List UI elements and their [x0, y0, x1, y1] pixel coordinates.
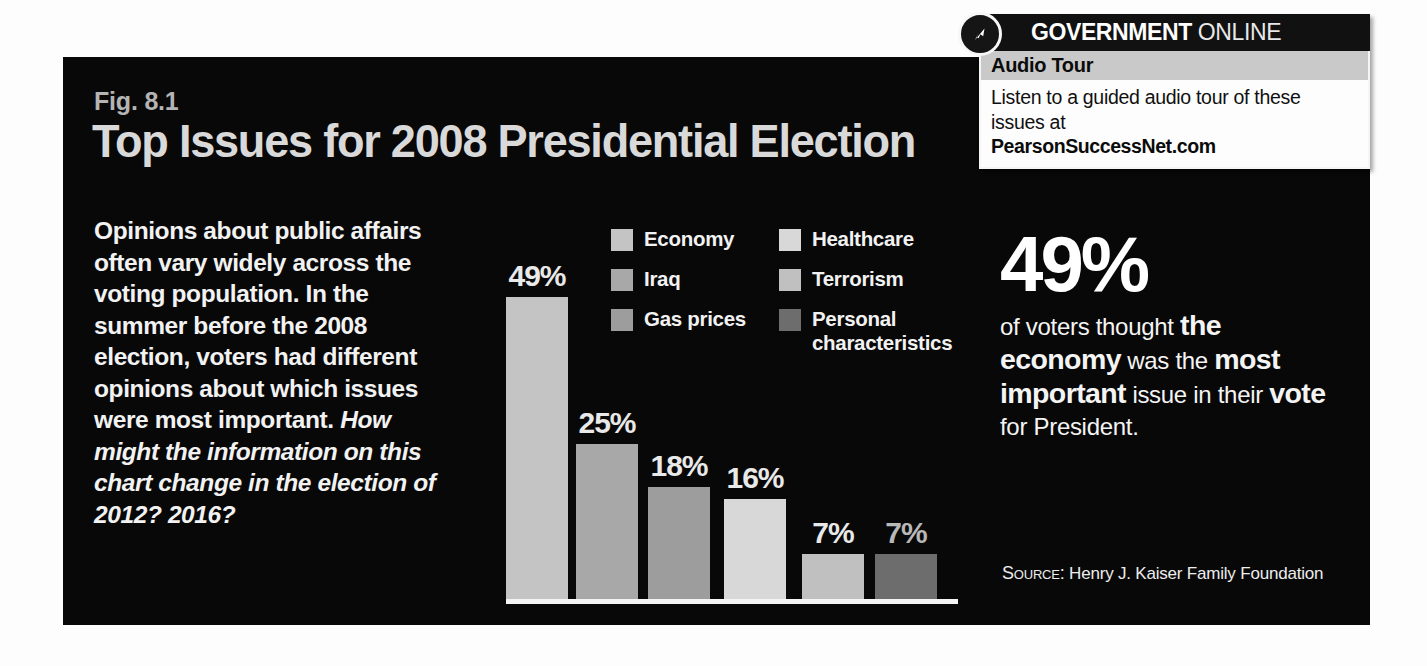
pull-quote-number: 49% — [1000, 225, 1330, 303]
legend-swatch-personal-characteristics — [779, 309, 801, 331]
bar-value-label: 7% — [812, 516, 853, 550]
brand-bold: GOVERNMENT — [1031, 19, 1192, 45]
bar-healthcare: 16% — [724, 499, 786, 602]
pull-quote-body: of voters thought the economy was the mo… — [1000, 309, 1330, 443]
bar-value-label: 18% — [650, 449, 707, 483]
brand-thin: ONLINE — [1198, 19, 1281, 45]
legend-swatch-economy — [611, 229, 633, 251]
legend-label: Gas prices — [644, 307, 746, 331]
bar-rect — [648, 487, 710, 602]
legend-label: Personal characteristics — [812, 307, 979, 355]
legend-swatch-terrorism — [779, 269, 801, 291]
callout-brand: GOVERNMENT ONLINE — [1031, 19, 1281, 46]
pull-quote: 49% of voters thought the economy was th… — [1000, 225, 1330, 443]
bar-economy: 49% — [506, 297, 568, 602]
bar-value-label: 25% — [578, 406, 635, 440]
legend-swatch-gas-prices — [611, 309, 633, 331]
callout-body: Listen to a guided audio tour of these i… — [979, 80, 1370, 169]
legend-column-left: Economy Iraq Gas prices — [611, 227, 779, 371]
legend-item: Economy — [611, 227, 779, 251]
pq-5: issue in their — [1126, 381, 1269, 408]
legend-item: Terrorism — [779, 267, 979, 291]
legend-label: Economy — [644, 227, 734, 251]
pq-1: of voters thought — [1000, 313, 1180, 340]
bar-rect — [724, 499, 786, 602]
lead-paragraph: Opinions about public affairs often vary… — [94, 215, 438, 530]
legend-item: Personal characteristics — [779, 307, 979, 355]
legend-label: Iraq — [644, 267, 680, 291]
source-name: Henry J. Kaiser Family Foundation — [1069, 564, 1323, 583]
infographic-stage: Fig. 8.1 Top Issues for 2008 Presidentia… — [0, 0, 1427, 666]
pq-7: for President. — [1000, 413, 1139, 440]
callout-header: GOVERNMENT ONLINE — [979, 14, 1370, 51]
figure-number: Fig. 8.1 — [94, 87, 179, 116]
callout-band-title: Audio Tour — [991, 54, 1093, 77]
legend-swatch-iraq — [611, 269, 633, 291]
legend-item: Iraq — [611, 267, 779, 291]
page-title: Top Issues for 2008 Presidential Electio… — [92, 113, 915, 168]
government-online-callout[interactable]: GOVERNMENT ONLINE Audio Tour Listen to a… — [979, 14, 1370, 169]
bar-value-label: 49% — [508, 259, 565, 293]
source-line: Source: Henry J. Kaiser Family Foundatio… — [1002, 563, 1323, 584]
chart-legend: Economy Iraq Gas prices Healthcare — [611, 227, 986, 371]
bar-rect — [576, 444, 638, 602]
bar-gas-prices: 18% — [648, 487, 710, 602]
legend-label: Healthcare — [812, 227, 914, 251]
cursor-arrow-icon — [958, 12, 1002, 56]
callout-body-text: Listen to a guided audio tour of these i… — [991, 86, 1301, 133]
pq-3: was the — [1121, 347, 1214, 374]
legend-swatch-healthcare — [779, 229, 801, 251]
bar-rect — [802, 554, 864, 602]
legend-item: Healthcare — [779, 227, 979, 251]
bar-rect — [506, 297, 568, 602]
chart-baseline — [506, 599, 958, 604]
legend-label: Terrorism — [812, 267, 903, 291]
lead-intro-text: Opinions about public affairs often vary… — [94, 217, 421, 433]
bar-value-label: 7% — [885, 516, 926, 550]
bar-iraq: 25% — [576, 444, 638, 602]
source-prefix: Source: — [1002, 563, 1065, 583]
legend-item: Gas prices — [611, 307, 779, 331]
pq-6: vote — [1269, 377, 1325, 409]
bar-personal-characteristics: 7% — [875, 554, 937, 602]
bar-terrorism: 7% — [802, 554, 864, 602]
legend-column-right: Healthcare Terrorism Personal characteri… — [779, 227, 979, 371]
bar-rect — [875, 554, 937, 602]
bar-value-label: 16% — [726, 461, 783, 495]
callout-url-link[interactable]: PearsonSuccessNet.com — [991, 135, 1358, 158]
callout-band: Audio Tour — [979, 51, 1370, 80]
